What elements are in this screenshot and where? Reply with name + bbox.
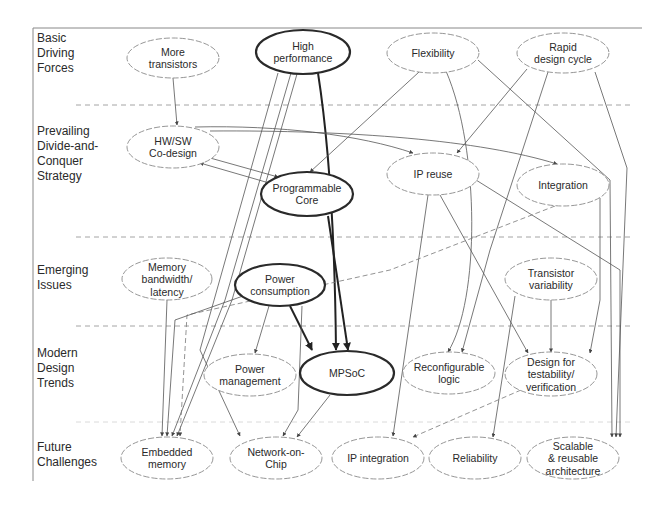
node-mpsoc: MPSoC bbox=[300, 351, 394, 395]
row-label-line: Issues bbox=[37, 278, 72, 292]
design-trends-diagram: BasicDrivingForcesPrevailingDivide-and-C… bbox=[0, 0, 662, 505]
edge-power-consumption-to-power-management bbox=[255, 306, 269, 353]
node-label-line: performance bbox=[274, 52, 333, 64]
row-label-line: Trends bbox=[37, 376, 74, 390]
row-label-line: Conquer bbox=[37, 154, 83, 168]
node-label: Embeddedmemory bbox=[142, 446, 193, 471]
node-ip-reuse: IP reuse bbox=[387, 153, 479, 195]
node-label-line: Programmable bbox=[273, 182, 342, 194]
edge-design-for-testability-to-ip-integration bbox=[413, 390, 521, 437]
node-label-line: management bbox=[219, 375, 280, 387]
edge-rapid-design-cycle-to-reconfigurable-logic bbox=[462, 72, 548, 352]
row-label-line: Future bbox=[37, 440, 72, 454]
node-label-line: consumption bbox=[250, 285, 310, 297]
node-flexibility: Flexibility bbox=[387, 33, 479, 73]
node-label-line: Design for bbox=[527, 356, 575, 368]
row-labels: BasicDrivingForcesPrevailingDivide-and-C… bbox=[37, 31, 98, 469]
node-reliability: Reliability bbox=[429, 437, 521, 479]
edge-more-transistors-to-hw-sw-codesign bbox=[173, 78, 177, 125]
node-label-line: Transistor bbox=[528, 267, 575, 279]
node-label-line: latency bbox=[150, 286, 184, 298]
node-label-line: logic bbox=[438, 373, 460, 385]
node-label: IP integration bbox=[347, 452, 409, 464]
edge-flexibility-to-programmable-core bbox=[310, 72, 419, 172]
node-high-performance: Highperformance bbox=[256, 30, 350, 74]
row-label-prevailing: PrevailingDivide-and-ConquerStrategy bbox=[37, 124, 98, 183]
node-power-consumption: Powerconsumption bbox=[235, 264, 325, 306]
node-label-line: More bbox=[161, 46, 185, 58]
node-label-line: verification bbox=[526, 381, 576, 393]
node-power-management: Powermanagement bbox=[204, 354, 296, 396]
node-label-line: HW/SW bbox=[154, 135, 191, 147]
node-label-line: Co-design bbox=[149, 147, 197, 159]
row-label-line: Strategy bbox=[37, 169, 82, 183]
row-label-line: Divide-and- bbox=[37, 139, 98, 153]
node-label-line: Power bbox=[265, 273, 295, 285]
node-programmable-core: ProgrammableCore bbox=[261, 172, 353, 216]
edge-flexibility-to-reconfigurable-logic bbox=[446, 71, 472, 352]
row-label-modern: ModernDesignTrends bbox=[37, 346, 78, 390]
node-label-line: IP integration bbox=[347, 452, 409, 464]
node-label-line: variability bbox=[529, 279, 574, 291]
node-ip-integration: IP integration bbox=[332, 437, 424, 479]
node-label-line: design cycle bbox=[534, 53, 592, 65]
node-label-line: Embedded bbox=[142, 446, 193, 458]
node-label-line: bandwidth/ bbox=[142, 273, 193, 285]
row-label-future: FutureChallenges bbox=[37, 440, 97, 469]
frame bbox=[33, 28, 642, 481]
node-label-line: Reliability bbox=[453, 452, 499, 464]
node-label-line: testability/ bbox=[528, 368, 575, 380]
edge-rapid-design-cycle-to-ip-reuse bbox=[457, 69, 527, 153]
node-label-line: Memory bbox=[148, 261, 187, 273]
node-label-line: High bbox=[292, 40, 314, 52]
node-label-line: MPSoC bbox=[329, 367, 366, 379]
row-label-emerging: EmergingIssues bbox=[37, 263, 88, 292]
node-label-line: & reusable bbox=[548, 452, 598, 464]
edge-memory-bandwidth-to-embedded-memory bbox=[162, 300, 167, 436]
node-label-line: Core bbox=[296, 194, 319, 206]
node-label-line: Scalable bbox=[553, 440, 593, 452]
row-label-basic: BasicDrivingForces bbox=[37, 31, 74, 75]
edge-hw-sw-codesign-to-programmable-core bbox=[203, 156, 278, 177]
edge-hw-sw-codesign-to-integration bbox=[210, 131, 557, 164]
node-scalable-architecture: Scalable& reusablearchitecture bbox=[527, 437, 619, 479]
node-label: Integration bbox=[538, 179, 588, 191]
node-label-line: transistors bbox=[149, 58, 197, 70]
row-label-line: Basic bbox=[37, 31, 66, 45]
row-label-line: Prevailing bbox=[37, 124, 90, 138]
node-rapid-design-cycle: Rapiddesign cycle bbox=[517, 33, 609, 73]
node-label: Flexibility bbox=[411, 47, 455, 59]
node-label: Scalable& reusablearchitecture bbox=[546, 440, 601, 477]
node-embedded-memory: Embeddedmemory bbox=[121, 437, 213, 479]
node-more-transistors: Moretransistors bbox=[127, 38, 219, 78]
node-label-line: Power bbox=[235, 363, 265, 375]
node-label-line: memory bbox=[148, 458, 187, 470]
row-label-line: Driving bbox=[37, 46, 74, 60]
node-hw-sw-codesign: HW/SWCo-design bbox=[127, 126, 219, 168]
node-label-line: Rapid bbox=[549, 41, 577, 53]
row-label-line: Emerging bbox=[37, 263, 88, 277]
node-design-for-testability: Design fortestability/verification bbox=[505, 352, 597, 396]
node-label: Reliability bbox=[453, 452, 499, 464]
node-label-line: Integration bbox=[538, 179, 588, 191]
node-label: MPSoC bbox=[329, 367, 366, 379]
node-label: Transistorvariability bbox=[528, 267, 575, 292]
row-label-line: Challenges bbox=[37, 455, 97, 469]
nodes: MoretransistorsHighperformanceFlexibilit… bbox=[121, 30, 619, 479]
node-reconfigurable-logic: Reconfigurablelogic bbox=[403, 352, 495, 394]
node-label-line: Flexibility bbox=[411, 47, 455, 59]
node-memory-bandwidth: Memorybandwidth/latency bbox=[122, 258, 212, 300]
node-label-line: Reconfigurable bbox=[414, 361, 485, 373]
edge-mpsoc-to-network-on-chip bbox=[297, 395, 330, 437]
edge-ip-reuse-to-ip-integration bbox=[393, 195, 428, 436]
node-transistor-variability: Transistorvariability bbox=[505, 258, 597, 300]
row-label-line: Forces bbox=[37, 61, 74, 75]
node-network-on-chip: Network-on-Chip bbox=[230, 437, 322, 479]
edge-programmable-core-to-hw-sw-codesign bbox=[200, 163, 276, 185]
node-label-line: Chip bbox=[265, 458, 287, 470]
node-label-line: IP reuse bbox=[414, 168, 453, 180]
node-label: IP reuse bbox=[414, 168, 453, 180]
node-label-line: Network-on- bbox=[247, 446, 305, 458]
node-label: Design fortestability/verification bbox=[526, 356, 576, 393]
edge-programmable-core-to-mpsoc bbox=[328, 216, 348, 350]
